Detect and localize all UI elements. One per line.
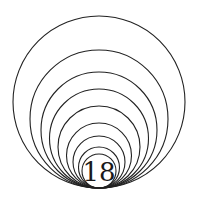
- nested-tangent-circles-diagram: 18: [0, 0, 199, 208]
- center-number-label: 18: [82, 157, 115, 187]
